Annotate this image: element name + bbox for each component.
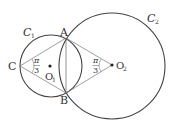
label-c1-sub: 1 (31, 32, 35, 39)
label-o2-sub: 2 (123, 65, 127, 72)
angle-o2-numerator: π (92, 56, 99, 65)
label-b: B (60, 94, 68, 107)
point-o1 (48, 64, 51, 67)
angle-o2-denominator: 3 (93, 66, 98, 75)
label-c: C (8, 60, 16, 73)
diagram-canvas: A B C O 1 O 2 C 1 C 2 π 3 π 3 (0, 0, 173, 131)
label-o1-sub: 1 (52, 76, 56, 83)
label-a: A (59, 26, 69, 39)
geometry-figure: A B C O 1 O 2 C 1 C 2 π 3 π 3 (0, 0, 173, 131)
angle-c-numerator: π (33, 56, 40, 65)
angle-c-denominator: 3 (34, 66, 39, 75)
label-c2-sub: 2 (155, 18, 159, 25)
point-o2 (110, 63, 113, 66)
segment-o2a (66, 38, 112, 65)
segment-o2b (66, 65, 112, 93)
angle-arc-o2 (99, 59, 101, 72)
